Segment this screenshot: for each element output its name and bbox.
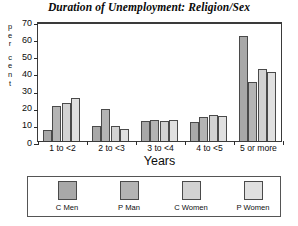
bar [218, 116, 227, 141]
bars-layer [38, 24, 281, 141]
bar [111, 126, 120, 141]
y-axis-tick: 20 [34, 110, 38, 111]
x-axis-tick-label: 5 or more [234, 144, 283, 153]
x-axis-tick [283, 141, 284, 145]
legend-label: C Men [36, 203, 98, 212]
bar [239, 36, 248, 141]
y-axis-tick-label: 70 [22, 19, 32, 28]
bar [267, 72, 276, 141]
chart-figure: Duration of Unemployment: Religion/Sex p… [0, 0, 298, 226]
bar [258, 69, 267, 141]
bar [71, 98, 80, 141]
bar [169, 120, 178, 141]
y-axis-tick-label: 0 [27, 139, 32, 148]
x-axis-tick [38, 141, 39, 145]
y-axis-tick-label: 30 [22, 87, 32, 96]
bar [199, 117, 208, 141]
plot-area: 010203040506070 1 to <22 to <33 to <44 t… [37, 22, 282, 142]
legend-label: P Man [98, 203, 160, 212]
legend-item[interactable]: C Men [36, 181, 98, 212]
bar [52, 106, 61, 141]
legend-swatch [120, 181, 139, 200]
bar [92, 126, 101, 141]
y-axis-tick: 40 [34, 75, 38, 76]
x-axis-tick-label: 1 to <2 [38, 144, 87, 153]
bar [150, 120, 159, 141]
y-axis-tick-label: 40 [22, 70, 32, 79]
y-axis-tick: 60 [34, 41, 38, 42]
y-axis-tick-label: 50 [22, 53, 32, 62]
chart-title: Duration of Unemployment: Religion/Sex [0, 1, 298, 13]
bar [141, 121, 150, 141]
y-axis-tick: 70 [34, 24, 38, 25]
bar [160, 121, 169, 141]
y-axis-tick-label: 20 [22, 104, 32, 113]
legend-item[interactable]: C Women [160, 181, 222, 212]
bar [248, 82, 257, 141]
legend-item[interactable]: P Women [222, 181, 284, 212]
legend-label: P Women [222, 203, 284, 212]
x-axis-tick-label: 2 to <3 [87, 144, 136, 153]
y-axis-tick-label: 60 [22, 36, 32, 45]
y-axis-label-char: r [4, 40, 16, 49]
y-axis-tick: 50 [34, 58, 38, 59]
x-axis-tick-label: 4 to <5 [185, 144, 234, 153]
x-axis-title: Years [37, 154, 282, 168]
bar [190, 122, 199, 141]
bar [62, 103, 71, 141]
y-axis-label-char: t [4, 80, 16, 89]
bar [43, 130, 52, 141]
bar [120, 129, 129, 141]
chart-legend: C MenP ManC WomenP Women [27, 176, 281, 217]
y-axis-label: percent [4, 23, 16, 88]
bar [101, 109, 110, 141]
legend-swatch [182, 181, 201, 200]
y-axis-tick: 30 [34, 93, 38, 94]
x-axis-tick-label: 3 to <4 [136, 144, 185, 153]
y-axis-tick-label: 10 [22, 121, 32, 130]
legend-swatch [58, 181, 77, 200]
legend-swatch [244, 181, 263, 200]
legend-item[interactable]: P Man [98, 181, 160, 212]
legend-label: C Women [160, 203, 222, 212]
y-axis-tick: 10 [34, 127, 38, 128]
bar [209, 115, 218, 141]
